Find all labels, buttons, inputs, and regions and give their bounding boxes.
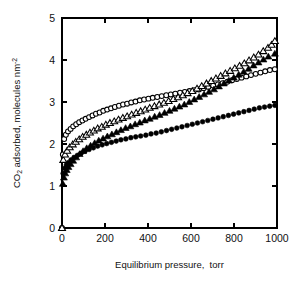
scatter-plot: 02004006008001000 012345 Equilibrium pre… — [0, 0, 300, 283]
y-tick-label: 3 — [49, 96, 55, 108]
data-series-layer — [59, 38, 279, 231]
plot-frame — [62, 18, 277, 228]
y-tick-label: 5 — [49, 12, 55, 24]
y-axis-title: CO2 adsorbed, molecules nm-2 — [11, 58, 24, 188]
y-axis-tick-labels: 012345 — [49, 12, 55, 234]
x-tick-label: 400 — [139, 232, 157, 244]
x-tick-label: 600 — [182, 232, 200, 244]
y-tick-label: 2 — [49, 138, 55, 150]
y-tick-label: 1 — [49, 180, 55, 192]
x-axis-tick-labels: 02004006008001000 — [59, 232, 289, 244]
series-filled-circles — [60, 103, 278, 230]
y-axis-ticks — [62, 18, 277, 228]
x-axis-title: Equilibrium pressure, torr — [115, 259, 224, 270]
chart-figure: 02004006008001000 012345 Equilibrium pre… — [0, 0, 300, 283]
y-axis-title-text: CO2 adsorbed, molecules nm-2 — [11, 58, 24, 188]
y-tick-label: 0 — [49, 222, 55, 234]
y-tick-label: 4 — [49, 54, 55, 66]
x-tick-label: 0 — [59, 232, 65, 244]
x-tick-label: 1000 — [265, 232, 289, 244]
x-tick-label: 800 — [225, 232, 243, 244]
x-axis-title-text: Equilibrium pressure, torr — [115, 259, 224, 270]
x-axis-ticks — [62, 18, 277, 228]
x-tick-label: 200 — [96, 232, 114, 244]
series-open-triangles — [59, 38, 279, 231]
